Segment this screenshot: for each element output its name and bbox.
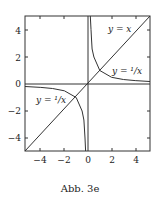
svg-text:2: 2 — [109, 155, 115, 165]
y-tick-labels: 4 2 0 −2 −4 — [8, 26, 22, 143]
svg-text:−2: −2 — [57, 155, 70, 165]
label-y-equals-inv-x-left: y = ¹/x — [35, 95, 66, 105]
figure-caption: Abb. 3e — [0, 183, 160, 194]
svg-text:4: 4 — [15, 26, 21, 36]
plot: 4 2 0 −2 −4 −4 −2 0 2 4 y = x y = ¹/x y … — [0, 0, 160, 201]
svg-text:−2: −2 — [8, 106, 21, 116]
svg-text:−4: −4 — [33, 155, 47, 165]
label-y-equals-x: y = x — [107, 24, 131, 34]
svg-text:0: 0 — [85, 155, 91, 165]
svg-text:−4: −4 — [8, 133, 22, 143]
svg-text:4: 4 — [133, 155, 139, 165]
label-y-equals-inv-x-right: y = ¹/x — [111, 66, 142, 76]
svg-text:0: 0 — [15, 79, 21, 89]
svg-text:2: 2 — [15, 53, 21, 63]
x-tick-labels: −4 −2 0 2 4 — [33, 155, 139, 165]
